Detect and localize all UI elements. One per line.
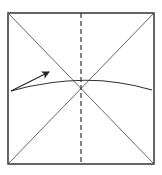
origami-diagram (0, 0, 162, 175)
